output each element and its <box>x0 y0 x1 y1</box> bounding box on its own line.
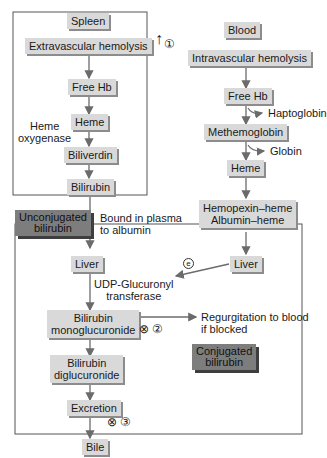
block-2-icon: ⊗ <box>139 323 149 335</box>
udp-line2: transferase <box>94 290 173 302</box>
conjugated-line2: bilirubin <box>196 357 252 368</box>
heme-oxygenase-label: Heme oxygenase <box>18 120 71 144</box>
mono-line1: Bilirubin <box>51 312 135 324</box>
udp-transferase-label: UDP-Glucuronyl transferase <box>94 278 173 302</box>
node-spleen: Spleen <box>67 13 109 29</box>
regurgitation-label: Regurgitation to blood if blocked <box>201 311 309 335</box>
node-heme-left: Heme <box>71 114 108 130</box>
node-extravascular-hemolysis: Extravascular hemolysis <box>25 38 152 54</box>
circled-e-icon: e <box>183 258 194 269</box>
node-liver-right: Liver <box>230 256 262 272</box>
di-line1: Bilirubin <box>54 357 119 369</box>
node-heme-right: Heme <box>227 160 264 176</box>
heme-oxygenase-line2: oxygenase <box>18 132 71 144</box>
node-biliverdin: Biliverdin <box>64 147 117 163</box>
node-hemopexin-albumin-heme: Hemopexin–heme Albumin–heme <box>199 200 296 228</box>
node-methemoglobin: Methemoglobin <box>204 124 287 140</box>
node-bilirubin-diglucuronide: Bilirubin diglucuronide <box>50 355 123 383</box>
hemopexin-line2: Albumin–heme <box>203 214 292 226</box>
regurg-line1: Regurgitation to blood <box>201 311 309 323</box>
circle-3-icon: ③ <box>120 416 131 428</box>
hemopexin-line1: Hemopexin–heme <box>203 202 292 214</box>
bound-albumin-label: Bound in plasma to albumin <box>100 212 182 236</box>
node-free-hb-right: Free Hb <box>224 88 272 104</box>
di-line2: diglucuronide <box>54 369 119 381</box>
increase-arrow-icon: ↑ <box>155 33 163 45</box>
regurg-line2: if blocked <box>201 323 309 335</box>
node-excretion: Excretion <box>67 400 121 416</box>
node-conjugated-bilirubin: Conjugated bilirubin <box>192 344 256 370</box>
node-free-hb-left: Free Hb <box>68 79 116 95</box>
node-bile: Bile <box>82 439 108 455</box>
node-intravascular-hemolysis: Intravascular hemolysis <box>188 50 311 66</box>
bound-line1: Bound in plasma <box>100 212 182 224</box>
node-liver: Liver <box>71 256 103 272</box>
circle-2-icon: ② <box>152 323 163 335</box>
bound-line2: to albumin <box>100 224 182 236</box>
heme-oxygenase-line1: Heme <box>18 120 71 132</box>
mono-line2: monoglucuronide <box>51 324 135 336</box>
node-unconjugated-bilirubin: Unconjugated bilirubin <box>15 210 91 236</box>
node-bilirubin-monoglucuronide: Bilirubin monoglucuronide <box>47 310 139 338</box>
globin-label: Globin <box>270 145 302 157</box>
circle-1-icon: ① <box>164 38 175 50</box>
node-blood: Blood <box>224 22 260 38</box>
block-3-icon: ⊗ <box>107 416 117 428</box>
haptoglobin-label: Haptoglobin <box>268 107 327 119</box>
node-bilirubin: Bilirubin <box>67 179 114 195</box>
udp-line1: UDP-Glucuronyl <box>94 278 173 290</box>
unconjugated-line2: bilirubin <box>19 223 87 234</box>
